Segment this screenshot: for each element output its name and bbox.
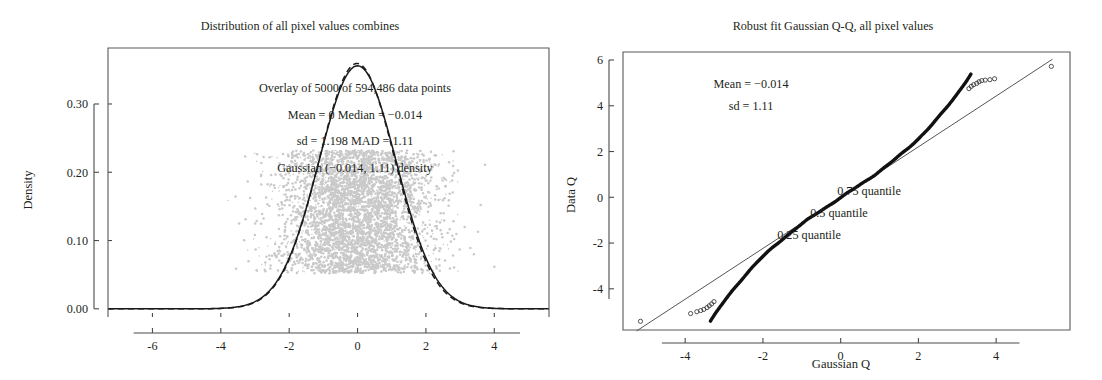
density-annotation-line: Overlay of 5000 of 594,486 data points [259, 81, 451, 95]
qq-tail-point [988, 78, 992, 82]
figure-two-panel-diagnostics: Distribution of all pixel values combine… [0, 0, 1102, 380]
y-tick-label: -2 [593, 236, 603, 250]
density-annotation-line: Mean = 0 Median = −0.014 [288, 108, 422, 122]
x-tick-label: 4 [491, 339, 497, 353]
x-tick-label: -6 [147, 339, 157, 353]
y-tick-label: 0.10 [67, 234, 88, 248]
density-y-axis-title: Density [21, 170, 35, 210]
y-tick-label: 0.30 [67, 97, 88, 111]
x-tick-label: 2 [915, 349, 921, 363]
density-x-tick-labels: -6-4-2024 [147, 339, 497, 353]
qq-tail-point [689, 311, 693, 315]
density-panel: Distribution of all pixel values combine… [0, 0, 551, 380]
x-tick-label: 4 [993, 349, 999, 363]
qq-y-tick-labels: -4-20246 [593, 53, 603, 296]
qq-y-axis-title: Data Q [564, 177, 578, 213]
x-tick-label: 2 [423, 339, 429, 353]
qq-plot-canvas: Robust fit Gaussian Q-Q, all pixel value… [551, 0, 1102, 380]
qq-annotation-line: sd = 1.11 [729, 99, 774, 113]
y-tick-label: 2 [597, 145, 603, 159]
quantile-label: 0.5 quantile [810, 206, 868, 220]
x-tick-label: 0 [355, 339, 361, 353]
qq-panel: Robust fit Gaussian Q-Q, all pixel value… [551, 0, 1102, 380]
density-annotation-line: sd = 1.198 MAD = 1.11 [297, 134, 414, 148]
qq-quantile-annotations: 0.75 quantile0.5 quantile0.25 quantile [777, 184, 901, 242]
x-tick-label: -4 [216, 339, 226, 353]
qq-axis-ticks [609, 60, 996, 343]
y-tick-label: 6 [597, 53, 603, 67]
qq-annotation-block: Mean = −0.014sd = 1.11 [713, 77, 788, 113]
qq-annotation-line: Mean = −0.014 [713, 77, 788, 91]
y-tick-label: 4 [597, 99, 603, 113]
density-plot-canvas: Distribution of all pixel values combine… [0, 0, 551, 380]
x-tick-label: 0 [838, 349, 844, 363]
quantile-label: 0.25 quantile [777, 228, 841, 242]
density-annotation-line: Gaussian (−0.014, 1.11) density [277, 161, 433, 175]
x-tick-label: -4 [680, 349, 690, 363]
density-annotation-block: Overlay of 5000 of 594,486 data pointsMe… [259, 81, 451, 175]
y-tick-label: -4 [593, 282, 603, 296]
qq-x-tick-labels: -4-2024 [680, 349, 999, 363]
y-tick-label: 0.20 [67, 166, 88, 180]
y-tick-label: 0.00 [67, 302, 88, 316]
x-tick-label: -2 [284, 339, 294, 353]
qq-panel-title: Robust fit Gaussian Q-Q, all pixel value… [733, 19, 934, 33]
qq-tail-point [638, 319, 642, 323]
density-panel-title: Distribution of all pixel values combine… [201, 19, 400, 33]
qq-tail-point [992, 77, 996, 81]
density-y-tick-labels: 0.000.100.200.30 [67, 97, 88, 316]
x-tick-label: -2 [758, 349, 768, 363]
quantile-label: 0.75 quantile [837, 184, 901, 198]
y-tick-label: 0 [597, 191, 603, 205]
qq-tail-point [1049, 64, 1053, 68]
